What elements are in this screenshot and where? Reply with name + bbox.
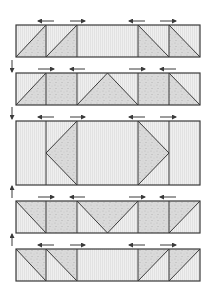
row-1: [16, 25, 200, 57]
folding-diagram: [0, 0, 212, 299]
shaded-cell: [46, 73, 77, 105]
row-5: [16, 249, 200, 281]
strip-background: [16, 121, 200, 185]
shaded-cell: [138, 73, 169, 105]
row-4: [16, 201, 200, 233]
row-3: [16, 121, 200, 185]
shaded-cell: [46, 201, 77, 233]
row-2: [16, 73, 200, 105]
strip-rows: [16, 25, 200, 281]
shaded-cell: [138, 201, 169, 233]
